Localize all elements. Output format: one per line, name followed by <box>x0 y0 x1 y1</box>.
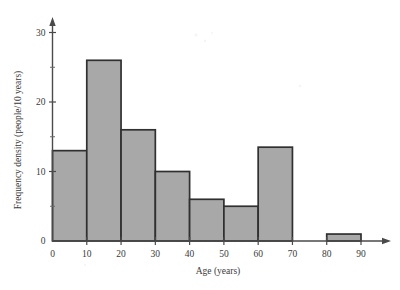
x-axis-title: Age (years) <box>196 266 241 277</box>
x-tick-label: 10 <box>82 249 92 259</box>
histogram-bar <box>190 199 224 241</box>
histogram-bar <box>53 151 87 241</box>
histogram-bar <box>87 60 121 241</box>
x-tick-label: 0 <box>50 249 55 259</box>
x-tick-label: 70 <box>288 249 298 259</box>
histogram-bar <box>121 130 155 241</box>
x-tick-label: 50 <box>219 249 229 259</box>
x-tick-label: 80 <box>322 249 332 259</box>
x-tick-label: 40 <box>185 249 195 259</box>
x-tick-label: 90 <box>356 249 366 259</box>
chart-background <box>0 0 400 290</box>
histogram-bar <box>155 172 189 242</box>
y-tick-label: 30 <box>36 28 46 38</box>
histogram-bar <box>327 234 361 241</box>
histogram-bar <box>224 206 258 241</box>
x-tick-label: 20 <box>116 249 126 259</box>
chart-canvas: 0102030 0102030405060708090 Age (years) … <box>0 0 400 290</box>
histogram-bar <box>258 147 292 241</box>
x-tick-label: 30 <box>151 249 161 259</box>
y-tick-label: 0 <box>41 236 46 246</box>
y-axis-title: Frequency density (people/10 years) <box>13 71 24 210</box>
x-tick-label: 60 <box>253 249 263 259</box>
y-tick-label: 10 <box>36 167 46 177</box>
histogram-chart: 0102030 0102030405060708090 Age (years) … <box>0 0 400 290</box>
y-tick-label: 20 <box>36 97 46 107</box>
